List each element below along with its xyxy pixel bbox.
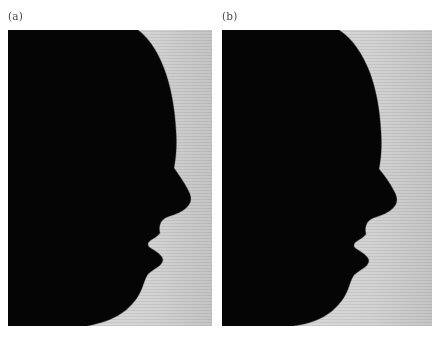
- figure-container: (a) (b): [0, 0, 440, 340]
- silhouette-image-b: [222, 30, 432, 326]
- panel-label-a: (a): [8, 11, 23, 22]
- silhouette-image-a: [8, 30, 212, 326]
- panel-label-b: (b): [222, 11, 238, 22]
- panel-b: [222, 30, 432, 326]
- panel-a: [8, 30, 212, 326]
